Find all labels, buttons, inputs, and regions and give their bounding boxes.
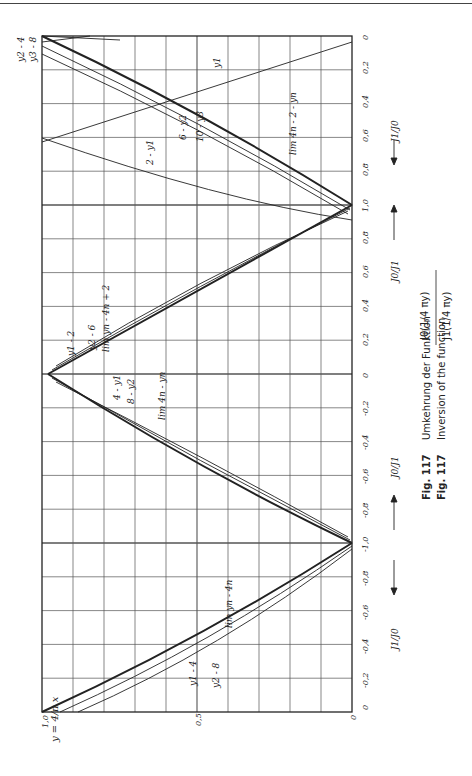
label-lim-yn-4n: lim yn - 4n xyxy=(224,579,234,628)
arrow-up-icon xyxy=(391,495,397,502)
x-tick: -0,8 xyxy=(361,503,370,518)
segment-label: J1/J0 xyxy=(390,120,400,144)
curve-labels: y3 - 8 y2 - 4 y1 6 - y2 10 - y3 lim 4n -… xyxy=(16,36,298,689)
caption-denominator: J1(1/4 πy) xyxy=(441,292,452,341)
label-4-y1: 4 - y1 xyxy=(112,375,122,401)
label-y3-8: y3 - 8 xyxy=(28,36,38,63)
x-tick: 0,2 xyxy=(361,333,370,346)
label-y2-8: y2 - 8 xyxy=(211,662,221,689)
arrows xyxy=(391,140,397,595)
x-segment-labels: J1/J0 J0/J1 J0/J1 J1/J0 xyxy=(390,120,400,652)
x-tick: 1,0 xyxy=(361,199,370,212)
arrow-up-icon xyxy=(391,205,397,212)
label-y2-6: y2 - 6 xyxy=(87,324,97,351)
label-lim-4n-yn: lim 4n - yn xyxy=(157,371,167,420)
segment-label: J0/J1 xyxy=(390,260,400,284)
x-tick: 0 xyxy=(361,373,370,378)
label-lim-4n-2-yn: lim 4n - 2 - yn xyxy=(288,92,298,155)
segment-label: J0/J1 xyxy=(390,456,400,480)
label-10-y3: 10 - y3 xyxy=(195,111,205,142)
x-tick: 0,4 xyxy=(361,95,370,108)
x-tick: 0,4 xyxy=(361,299,370,312)
x-tick: 0,8 xyxy=(361,231,370,244)
label-6-y2: 6 - y2 xyxy=(178,114,188,140)
label-y1: y1 xyxy=(212,57,222,69)
y-tick-0.5: 0,5 xyxy=(194,713,203,726)
caption-fig-de: Fig. 117 xyxy=(421,454,432,500)
label-y1-4: y1 - 4 xyxy=(188,660,198,687)
x-tick: -1,0 xyxy=(361,537,370,552)
arrow-down-icon xyxy=(391,158,397,165)
y-axis-label: y = 4/π x xyxy=(49,696,60,743)
label-2-y1: 2 - y1 xyxy=(145,140,155,166)
label-y1-2: y1 - 2 xyxy=(66,330,76,357)
caption-fig-en: Fig. 117 xyxy=(436,454,447,500)
caption: Fig. 117 Umkehrung der Funktion Fig. 117… xyxy=(419,270,452,500)
x-tick: 0 xyxy=(361,35,370,40)
x-tick: 0,6 xyxy=(361,265,370,278)
chart: y3 - 8 y2 - 4 y1 6 - y2 10 - y3 lim 4n -… xyxy=(0,0,472,776)
x-ticks: 0 -0,2 -0,4 -0,6 -0,8 -1,0 -0,8 -0,6 -0,… xyxy=(361,35,370,710)
segment-label: J1/J0 xyxy=(390,628,400,652)
caption-numerator: J0(1/4 πy) xyxy=(419,292,430,341)
x-tick: 0,2 xyxy=(361,61,370,74)
x-tick: 0,6 xyxy=(361,129,370,142)
x-tick: -0,4 xyxy=(361,639,370,654)
arrow-down-icon xyxy=(391,588,397,595)
x-tick: -0,4 xyxy=(361,435,370,450)
label-y2-4: y2 - 4 xyxy=(16,36,26,63)
x-tick: 0 xyxy=(361,705,370,710)
y-tick-0: 0 xyxy=(349,715,358,720)
label-lim-yn-4n+2: lim yn - 4n + 2 xyxy=(101,284,111,352)
x-tick: -0,8 xyxy=(361,571,370,586)
x-tick: -0,6 xyxy=(361,469,370,484)
x-tick: 0,8 xyxy=(361,163,370,176)
x-tick: -0,6 xyxy=(361,605,370,620)
x-tick: -0,2 xyxy=(361,401,370,416)
label-8-y2: 8 - y2 xyxy=(126,378,136,404)
x-tick: -0,2 xyxy=(361,673,370,688)
y-axis: 1,0 0,5 0 y = 4/π x xyxy=(41,696,358,743)
